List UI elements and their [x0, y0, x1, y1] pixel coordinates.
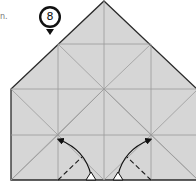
step-number: 8: [44, 10, 56, 24]
origami-diagram: [0, 0, 196, 184]
